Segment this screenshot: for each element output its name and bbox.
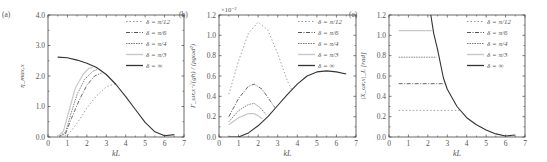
y-tick-label: 0.6 — [377, 72, 387, 81]
y-axis-label: Γ_ωr,x·√(gh) / (ρgωd²) — [189, 43, 197, 109]
x-axis-label: kL — [284, 149, 293, 158]
legend-entry: δ = π/3 — [318, 51, 339, 59]
y-tick-label: 1.0 — [207, 31, 217, 40]
y-tick-label: 0.2 — [377, 112, 387, 121]
chart-panel-c: 012345670.00.20.40.60.81.01.2(c)kL|X_ωr,… — [349, 10, 527, 158]
x-axis-label: kL — [453, 149, 462, 158]
x-tick-label: 2 — [426, 139, 430, 148]
y-tick-label: 0.0 — [36, 133, 46, 142]
y-axis-label: |X_ωr,x|_L [rad] — [359, 52, 367, 100]
series-line — [58, 68, 93, 138]
x-tick-label: 7 — [523, 139, 527, 148]
legend-entry: δ = π/3 — [146, 51, 167, 59]
y-tick-label: 1.0 — [377, 31, 387, 40]
x-tick-label: 0 — [387, 139, 391, 148]
x-tick-label: 4 — [124, 139, 128, 148]
legend-entry: δ = π/12 — [146, 18, 170, 26]
series-line — [229, 22, 292, 94]
y-tick-label: 0.4 — [377, 92, 387, 101]
y-tick-label: 0.2 — [207, 112, 217, 121]
y-tick-label: 1.2 — [207, 11, 217, 20]
legend-entry: δ = ∞ — [146, 62, 162, 70]
x-tick-label: 6 — [163, 139, 167, 148]
legend-entry: δ = π/12 — [318, 18, 342, 26]
x-tick-label: 5 — [143, 139, 147, 148]
legend-entry: δ = π/12 — [487, 18, 511, 26]
x-tick-label: 2 — [256, 139, 260, 148]
x-tick-label: 5 — [484, 139, 488, 148]
panel-label: (c) — [349, 10, 358, 19]
y-tick-label: 1.0 — [36, 102, 46, 111]
y-tick-label: 0.8 — [377, 51, 387, 60]
series-line — [229, 71, 346, 137]
x-axis-label: kL — [112, 149, 121, 158]
panel-label: (a) — [2, 10, 11, 19]
chart-panel-a: 012345670.01.02.03.04.0(a)kLη_max,xδ = π… — [2, 10, 186, 158]
x-tick-label: 4 — [295, 139, 299, 148]
x-tick-label: 0 — [46, 139, 50, 148]
y-tick-label: 0.0 — [377, 133, 387, 142]
series-line — [229, 84, 275, 117]
x-tick-label: 6 — [335, 139, 339, 148]
x-tick-label: 3 — [445, 139, 449, 148]
legend: δ = π/12δ = π/6δ = π/4δ = π/3δ = ∞ — [126, 18, 170, 70]
x-tick-label: 3 — [104, 139, 108, 148]
y-tick-label: 0.6 — [207, 72, 217, 81]
x-tick-label: 7 — [354, 139, 358, 148]
chart-panel-b: 012345670.00.20.40.60.81.01.2×10⁻²(b)kLΓ… — [179, 6, 358, 158]
legend-entry: δ = π/4 — [487, 40, 508, 48]
x-tick-label: 1 — [66, 139, 70, 148]
x-tick-label: 1 — [407, 139, 411, 148]
series-line — [229, 114, 262, 125]
y-tick-label: 0.8 — [207, 51, 217, 60]
x-tick-label: 4 — [465, 139, 469, 148]
y-tick-label: 1.2 — [377, 11, 387, 20]
figure: 012345670.01.02.03.04.0(a)kLη_max,xδ = π… — [0, 0, 547, 162]
y-tick-label: 0.0 — [207, 133, 217, 142]
legend-entry: δ = π/6 — [318, 29, 339, 37]
figure-canvas: 012345670.01.02.03.04.0(a)kLη_max,xδ = π… — [0, 0, 547, 162]
legend-entry: δ = π/3 — [487, 51, 508, 59]
legend: δ = π/12δ = π/6δ = π/4δ = π/3δ = ∞ — [298, 18, 342, 70]
legend: δ = π/12δ = π/6δ = π/4δ = π/3δ = ∞ — [467, 18, 511, 70]
x-tick-label: 5 — [315, 139, 319, 148]
x-tick-label: 7 — [182, 139, 186, 148]
y-tick-label: 0.4 — [207, 92, 217, 101]
x-tick-label: 6 — [504, 139, 508, 148]
y-multiplier: ×10⁻² — [221, 6, 237, 13]
y-tick-label: 4.0 — [36, 11, 46, 20]
y-tick-label: 2.0 — [36, 72, 46, 81]
y-tick-label: 3.0 — [36, 41, 46, 50]
legend-entry: δ = ∞ — [318, 62, 334, 70]
legend-entry: δ = π/4 — [146, 40, 167, 48]
x-tick-label: 0 — [217, 139, 221, 148]
legend-entry: δ = π/6 — [146, 29, 167, 37]
legend-entry: δ = ∞ — [487, 62, 503, 70]
x-tick-label: 1 — [237, 139, 241, 148]
x-tick-label: 3 — [276, 139, 280, 148]
legend-entry: δ = π/6 — [487, 29, 508, 37]
x-tick-label: 2 — [85, 139, 89, 148]
panel-label: (b) — [179, 10, 188, 19]
y-axis-label: η_max,x — [18, 63, 26, 87]
legend-entry: δ = π/4 — [318, 40, 339, 48]
